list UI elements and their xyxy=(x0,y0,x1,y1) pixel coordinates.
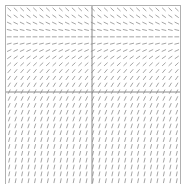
plot-frame xyxy=(6,6,181,185)
slope-field-plot xyxy=(0,0,186,184)
